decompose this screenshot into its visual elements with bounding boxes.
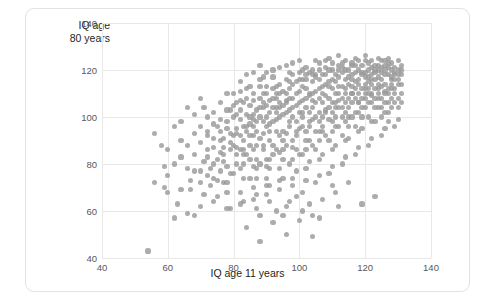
scatter-point (231, 114, 236, 119)
scatter-point (218, 150, 223, 155)
scatter-point (270, 152, 275, 157)
scatter-point (274, 129, 279, 134)
scatter-point (198, 96, 203, 101)
scatter-point (165, 147, 170, 152)
scatter-point (280, 157, 285, 162)
scatter-point (178, 187, 183, 192)
scatter-point (294, 133, 299, 138)
scatter-point (270, 67, 275, 72)
scatter-point (251, 91, 256, 96)
scatter-point (340, 96, 345, 101)
scatter-point (323, 72, 328, 77)
scatter-point (175, 201, 180, 206)
scatter-point (185, 211, 190, 216)
gridline-vertical (168, 23, 169, 258)
scatter-point (340, 114, 345, 119)
scatter-point (244, 72, 249, 77)
scatter-point (389, 82, 394, 87)
scatter-point (238, 79, 243, 84)
y-axis-tick-label: 100 (81, 112, 97, 123)
scatter-point (185, 166, 190, 171)
scatter-point (326, 96, 331, 101)
scatter-point (192, 152, 197, 157)
scatter-point (251, 70, 256, 75)
gridline-horizontal (102, 258, 431, 259)
scatter-point (251, 98, 256, 103)
scatter-point (280, 147, 285, 152)
scatter-point (363, 74, 368, 79)
gridline-vertical (234, 23, 235, 258)
scatter-point (372, 96, 377, 101)
scatter-point (349, 100, 354, 105)
scatter-point (287, 124, 292, 129)
scatter-point (399, 91, 404, 96)
scatter-point (396, 117, 401, 122)
scatter-point (326, 138, 331, 143)
scatter-point (307, 119, 312, 124)
scatter-point (188, 178, 193, 183)
scatter-point (363, 82, 368, 87)
scatter-point (215, 178, 220, 183)
scatter-point (300, 114, 305, 119)
scatter-point (323, 82, 328, 87)
scatter-point (300, 208, 305, 213)
scatter-point (215, 124, 220, 129)
scatter-point (399, 82, 404, 87)
scatter-point (264, 84, 269, 89)
scatter-point (336, 204, 341, 209)
scatter-point (247, 84, 252, 89)
scatter-point (261, 74, 266, 79)
scatter-point (294, 119, 299, 124)
scatter-point (277, 187, 282, 192)
scatter-point (346, 105, 351, 110)
scatter-point (294, 168, 299, 173)
scatter-point (257, 84, 262, 89)
scatter-point (270, 119, 275, 124)
scatter-point (290, 138, 295, 143)
scatter-point (251, 124, 256, 129)
scatter-point (198, 204, 203, 209)
scatter-plot: 406080100120140406080100120140 (102, 23, 431, 258)
scatter-point (396, 77, 401, 82)
scatter-point (264, 192, 269, 197)
gridline-vertical (431, 23, 432, 258)
scatter-point (215, 194, 220, 199)
scatter-point (379, 96, 384, 101)
scatter-point (215, 157, 220, 162)
scatter-point (218, 138, 223, 143)
scatter-point (241, 161, 246, 166)
scatter-point (317, 67, 322, 72)
scatter-point (247, 157, 252, 162)
scatter-point (376, 91, 381, 96)
scatter-point (346, 114, 351, 119)
scatter-point (284, 63, 289, 68)
scatter-point (353, 70, 358, 75)
scatter-point (277, 178, 282, 183)
scatter-point (218, 117, 223, 122)
scatter-point (264, 176, 269, 181)
scatter-point (307, 110, 312, 115)
scatter-point (392, 86, 397, 91)
scatter-point (231, 91, 236, 96)
scatter-point (172, 161, 177, 166)
scatter-point (238, 201, 243, 206)
scatter-point (251, 147, 256, 152)
scatter-point (297, 110, 302, 115)
scatter-point (254, 143, 259, 148)
scatter-point (287, 199, 292, 204)
scatter-point (280, 103, 285, 108)
scatter-point (313, 147, 318, 152)
scatter-point (188, 187, 193, 192)
scatter-point (356, 145, 361, 150)
scatter-point (247, 143, 252, 148)
scatter-point (224, 190, 229, 195)
scatter-point (356, 77, 361, 82)
scatter-point (185, 143, 190, 148)
scatter-point (300, 190, 305, 195)
scatter-point (320, 100, 325, 105)
scatter-point (359, 201, 364, 206)
scatter-point (172, 124, 177, 129)
scatter-point (379, 114, 384, 119)
scatter-point (198, 140, 203, 145)
scatter-point (303, 77, 308, 82)
